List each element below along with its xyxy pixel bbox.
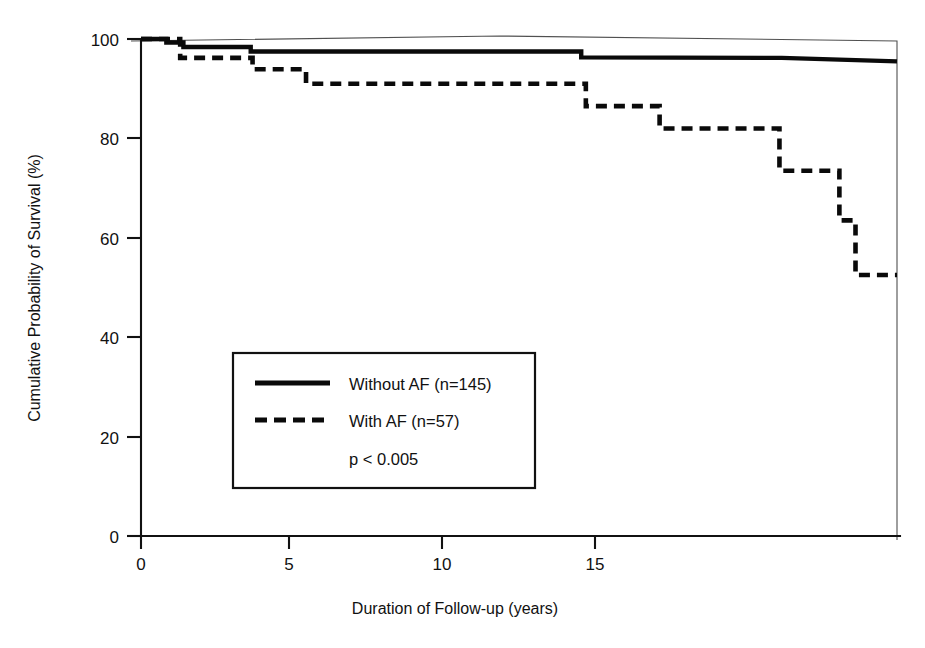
y-tick-label-0: 0 xyxy=(110,528,119,547)
x-axis-title: Duration of Follow-up (years) xyxy=(352,600,558,617)
x-tick-label-10: 10 xyxy=(433,555,452,574)
y-tick-marks xyxy=(127,39,141,536)
survival-chart-figure: 100 80 60 40 20 0 0 5 10 15 Duration of … xyxy=(0,0,925,648)
y-axis-title: Cumulative Probability of Survival (%) xyxy=(26,154,43,422)
y-tick-label-80: 80 xyxy=(100,130,119,149)
x-tick-label-5: 5 xyxy=(284,555,293,574)
y-tick-label-60: 60 xyxy=(100,230,119,249)
legend-pvalue: p < 0.005 xyxy=(349,450,418,468)
chart-legend: Without AF (n=145) With AF (n=57) p < 0.… xyxy=(233,353,535,488)
legend-label-without-af: Without AF (n=145) xyxy=(349,375,492,393)
series-with-af-line xyxy=(141,39,897,275)
y-tick-label-40: 40 xyxy=(100,329,119,348)
legend-label-with-af: With AF (n=57) xyxy=(349,412,460,430)
x-tick-marks xyxy=(141,536,595,549)
x-tick-label-15: 15 xyxy=(586,555,605,574)
y-tick-label-20: 20 xyxy=(100,429,119,448)
x-tick-label-0: 0 xyxy=(136,555,145,574)
y-tick-label-100: 100 xyxy=(91,31,119,50)
